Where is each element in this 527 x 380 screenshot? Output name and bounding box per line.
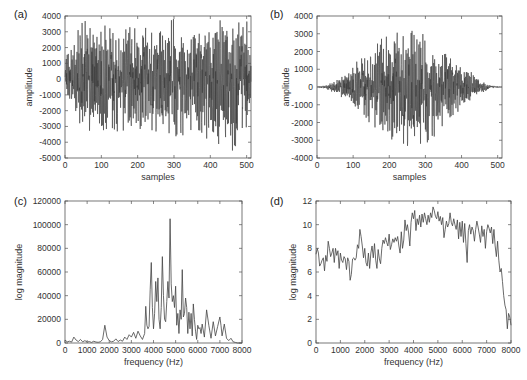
x-tick-label: 0: [63, 160, 68, 170]
x-tick-label: 0: [315, 160, 320, 170]
y-tick-label: 20000: [37, 314, 61, 324]
y-tick-label: -4000: [39, 137, 61, 147]
y-tick-label: 100000: [33, 220, 62, 230]
y-tick-label: 6: [307, 267, 312, 277]
x-axis-label: samples: [393, 172, 427, 182]
panel-c: (c) 010002000300040005000600070008000020…: [14, 195, 252, 367]
x-tick-label: 0: [63, 345, 68, 355]
panel-b: (b) 0100200300400500-4000-3000-2000-1000…: [270, 8, 505, 182]
x-tick-label: 2000: [355, 345, 374, 355]
y-tick-label: 0: [56, 338, 61, 348]
figure: (a) 0100200300400500-5000-4000-3000-2000…: [0, 0, 527, 380]
data-line: [316, 207, 511, 329]
y-tick-label: -3000: [39, 121, 61, 131]
panel-a: (a) 0100200300400500-5000-4000-3000-2000…: [14, 8, 254, 182]
y-tick-label: 60000: [37, 267, 61, 277]
waveform-line: [317, 31, 502, 146]
y-tick-label: 1000: [42, 58, 61, 68]
x-tick-label: 3000: [380, 345, 399, 355]
x-tick-label: 8000: [502, 345, 521, 355]
y-tick-label: 4: [307, 291, 312, 301]
x-tick-label: 7000: [210, 345, 229, 355]
y-tick-label: 12: [303, 196, 313, 206]
x-tick-label: 500: [240, 160, 254, 170]
waveform-plot-a: 0100200300400500-5000-4000-3000-2000-100…: [24, 11, 254, 182]
y-tick-label: 40000: [37, 291, 61, 301]
x-tick-label: 100: [94, 160, 108, 170]
y-tick-label: 0: [308, 82, 313, 92]
x-tick-label: 400: [203, 160, 217, 170]
x-tick-label: 200: [131, 160, 145, 170]
x-axis-label: frequency (Hz): [384, 357, 443, 367]
y-tick-label: -1000: [39, 90, 61, 100]
x-tick-label: 500: [491, 160, 505, 170]
y-tick-label: 3000: [42, 27, 61, 37]
y-tick-label: -1000: [291, 100, 313, 110]
x-tick-label: 400: [454, 160, 468, 170]
y-tick-label: 10: [303, 220, 313, 230]
data-line: [65, 219, 242, 343]
y-tick-label: 4000: [294, 11, 313, 21]
panel-label-d: (d): [270, 195, 283, 207]
x-tick-label: 0: [314, 345, 319, 355]
y-tick-label: 2000: [42, 43, 61, 53]
x-tick-label: 7000: [477, 345, 496, 355]
log-spectrum-plot-d: 0100020003000400050006000700080000246810…: [288, 196, 521, 367]
windowed-waveform-plot-b: 0100200300400500-4000-3000-2000-10000100…: [281, 11, 505, 182]
x-tick-label: 6000: [188, 345, 207, 355]
panel-label-c: (c): [14, 195, 27, 207]
x-tick-label: 1000: [331, 345, 350, 355]
x-tick-label: 300: [418, 160, 432, 170]
x-tick-label: 6000: [453, 345, 472, 355]
x-tick-label: 4000: [144, 345, 163, 355]
waveform-line: [65, 19, 251, 150]
y-axis-label: amplitude: [24, 67, 34, 106]
x-tick-label: 300: [167, 160, 181, 170]
x-axis-label: samples: [141, 172, 175, 182]
y-tick-label: 0: [56, 74, 61, 84]
y-tick-label: -5000: [39, 153, 61, 163]
y-axis-label: log magnitude: [288, 244, 298, 301]
y-axis-label: log magnitude: [14, 244, 24, 301]
y-tick-label: 2000: [294, 47, 313, 57]
y-tick-label: 120000: [33, 196, 62, 206]
y-axis-label: amplitude: [281, 67, 291, 106]
x-tick-label: 8000: [233, 345, 252, 355]
y-tick-label: 80000: [37, 243, 61, 253]
x-tick-label: 1000: [78, 345, 97, 355]
y-tick-label: -2000: [291, 118, 313, 128]
y-tick-label: 3000: [294, 29, 313, 39]
x-tick-label: 100: [346, 160, 360, 170]
y-tick-label: -3000: [291, 135, 313, 145]
x-tick-label: 4000: [404, 345, 423, 355]
y-tick-label: -4000: [291, 153, 313, 163]
y-tick-label: 4000: [42, 11, 61, 21]
x-axis-label: frequency (Hz): [124, 357, 183, 367]
plot-frame: [316, 201, 511, 343]
panel-d: (d) 010002000300040005000600070008000024…: [270, 195, 521, 367]
y-tick-label: 2: [307, 314, 312, 324]
y-tick-label: 0: [307, 338, 312, 348]
spectrum-plot-c: 0100020003000400050006000700080000200004…: [14, 196, 252, 367]
panel-label-a: (a): [14, 8, 27, 20]
y-tick-label: 8: [307, 243, 312, 253]
panel-label-b: (b): [270, 8, 283, 20]
x-tick-label: 5000: [166, 345, 185, 355]
x-tick-label: 2000: [100, 345, 119, 355]
y-tick-label: 1000: [294, 64, 313, 74]
y-tick-label: -2000: [39, 106, 61, 116]
x-tick-label: 200: [382, 160, 396, 170]
x-tick-label: 5000: [428, 345, 447, 355]
x-tick-label: 3000: [122, 345, 141, 355]
